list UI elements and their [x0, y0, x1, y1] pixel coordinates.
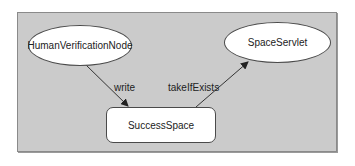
node-success-space[interactable]: SuccessSpace [106, 107, 216, 143]
edge-label-write: write [114, 82, 135, 93]
node-human-verification[interactable]: HumanVerificationNode [28, 25, 132, 66]
node-label: HumanVerificationNode [27, 40, 132, 51]
node-label: SpaceServlet [248, 37, 307, 48]
node-label: SuccessSpace [128, 120, 194, 131]
node-space-servlet[interactable]: SpaceServlet [224, 22, 331, 63]
edge-label-takeifexists: takeIfExists [168, 82, 219, 93]
